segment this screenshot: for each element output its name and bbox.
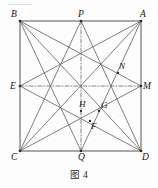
- point-marker-N: [117, 72, 119, 74]
- point-label-e: E: [10, 82, 16, 92]
- point-marker-G: [98, 110, 100, 112]
- point-label-q: Q: [78, 153, 85, 163]
- point-marker-M: [140, 85, 143, 88]
- point-label-n: N: [119, 62, 125, 71]
- point-marker-H: [80, 110, 82, 112]
- point-label-h: H: [79, 100, 86, 109]
- point-marker-C: [19, 150, 22, 153]
- point-label-d: D: [142, 153, 149, 163]
- geometry-figure: ——— BPAEMCQDNHGF 图 4: [0, 0, 158, 188]
- point-marker-E: [19, 85, 22, 88]
- point-label-p: P: [78, 10, 84, 20]
- point-marker-P: [80, 20, 83, 23]
- point-label-b: B: [11, 10, 17, 20]
- figure-caption: 图 4: [0, 167, 158, 181]
- point-marker-B: [19, 20, 22, 23]
- point-label-f: F: [91, 122, 97, 131]
- point-label-a: A: [140, 10, 146, 20]
- point-marker-A: [140, 20, 143, 23]
- point-label-m: M: [143, 82, 151, 92]
- point-label-g: G: [101, 101, 108, 110]
- point-label-c: C: [11, 153, 17, 163]
